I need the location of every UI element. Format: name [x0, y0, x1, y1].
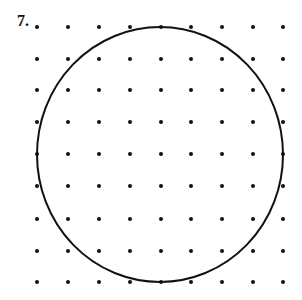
grid-dot — [66, 25, 70, 29]
grid-dot — [220, 280, 224, 284]
grid-dot — [281, 25, 285, 29]
grid-dot — [97, 184, 101, 188]
grid-dot — [220, 25, 224, 29]
dot-grid-figure — [0, 0, 302, 300]
grid-dot — [189, 25, 193, 29]
grid-dot — [128, 57, 132, 61]
grid-dot — [189, 184, 193, 188]
grid-dot — [35, 57, 39, 61]
grid-dot — [66, 88, 70, 92]
grid-dot — [220, 57, 224, 61]
grid-dot — [189, 57, 193, 61]
grid-dot — [281, 120, 285, 124]
grid-dot — [251, 25, 255, 29]
grid-dot — [35, 88, 39, 92]
grid-dot — [159, 217, 163, 221]
grid-dot — [97, 120, 101, 124]
grid-dot — [128, 249, 132, 253]
grid-dot — [251, 57, 255, 61]
grid-dot — [35, 249, 39, 253]
grid-dot — [251, 280, 255, 284]
grid-dot — [66, 280, 70, 284]
grid-dot — [281, 88, 285, 92]
grid-dot — [35, 184, 39, 188]
grid-dot — [251, 152, 255, 156]
grid-dot — [66, 184, 70, 188]
grid-dot — [97, 249, 101, 253]
grid-dot — [251, 120, 255, 124]
grid-dot — [66, 249, 70, 253]
grid-dot — [189, 88, 193, 92]
grid-dot — [66, 217, 70, 221]
grid-dot — [159, 88, 163, 92]
grid-dot — [97, 88, 101, 92]
grid-dot — [97, 25, 101, 29]
grid-dot — [97, 217, 101, 221]
grid-dot — [159, 120, 163, 124]
grid-dot — [66, 57, 70, 61]
grid-dot — [189, 217, 193, 221]
grid-dot — [159, 249, 163, 253]
grid-dot — [281, 280, 285, 284]
grid-dot — [220, 152, 224, 156]
grid-dot — [128, 88, 132, 92]
grid-dot — [128, 184, 132, 188]
grid-dot — [66, 120, 70, 124]
grid-dot — [220, 88, 224, 92]
grid-dot — [35, 120, 39, 124]
grid-dot — [251, 217, 255, 221]
grid-dot — [35, 217, 39, 221]
grid-dot — [220, 184, 224, 188]
grid-dot — [159, 184, 163, 188]
grid-dot — [189, 152, 193, 156]
grid-dot — [128, 152, 132, 156]
grid-dot — [189, 280, 193, 284]
grid-dot — [128, 25, 132, 29]
grid-dot — [281, 57, 285, 61]
grid-dot — [189, 120, 193, 124]
grid-dot — [220, 120, 224, 124]
grid-dot — [251, 184, 255, 188]
grid-dot — [128, 280, 132, 284]
grid-dot — [220, 249, 224, 253]
grid-dot — [128, 120, 132, 124]
grid-dot — [159, 57, 163, 61]
grid-dot — [128, 217, 132, 221]
grid-dot — [220, 217, 224, 221]
grid-dot — [281, 249, 285, 253]
grid-dot — [97, 57, 101, 61]
grid-dot — [251, 88, 255, 92]
grid-dot — [66, 152, 70, 156]
grid-dot — [251, 249, 255, 253]
grid-dot — [35, 25, 39, 29]
grid-dot — [189, 249, 193, 253]
grid-dot — [159, 152, 163, 156]
grid-dot — [97, 280, 101, 284]
grid-dot — [35, 280, 39, 284]
grid-dot — [281, 184, 285, 188]
grid-dot — [97, 152, 101, 156]
grid-dot — [281, 217, 285, 221]
